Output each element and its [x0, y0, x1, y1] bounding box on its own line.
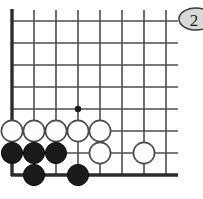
black-stone [23, 164, 44, 185]
black-stone [23, 142, 44, 163]
black-stone [45, 142, 66, 163]
go-board-diagram: 2 [0, 0, 203, 199]
black-stone [67, 164, 88, 185]
board-canvas: 2 [0, 0, 203, 199]
move-badge-label: 2 [190, 11, 199, 30]
black-stone [1, 142, 22, 163]
white-stone [133, 142, 154, 163]
white-stone [45, 120, 66, 141]
white-stone [67, 120, 88, 141]
white-stone [89, 142, 110, 163]
white-stone [89, 120, 110, 141]
white-stone [23, 120, 44, 141]
star-points [75, 106, 81, 112]
white-stone [1, 120, 22, 141]
star-point [75, 106, 81, 112]
move-number-badge: 2 [179, 8, 203, 30]
